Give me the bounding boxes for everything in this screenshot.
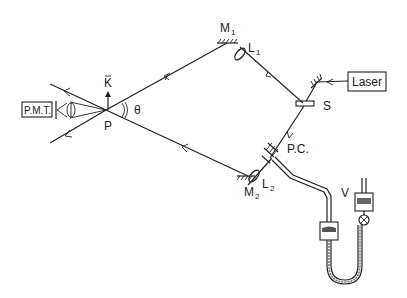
v-label: V <box>341 186 349 200</box>
outgoing-beam-upper <box>50 84 106 110</box>
laser-label: Laser <box>352 75 382 89</box>
p-label: P <box>104 119 112 133</box>
l2-subscript: 2 <box>270 184 275 193</box>
pmt-label: P.M.T. <box>24 105 51 116</box>
wave-vector-k: K <box>104 76 112 110</box>
k-label: K <box>104 76 112 90</box>
l2-label: L <box>262 177 269 191</box>
laser: Laser <box>348 72 386 91</box>
pockels-cell-pc: P.C. <box>262 142 309 163</box>
m1-subscript: 1 <box>231 28 236 37</box>
optical-setup-diagram: Laser S M 1 L 1 <box>0 0 407 298</box>
m2-subscript: 2 <box>255 192 260 201</box>
l1-subscript: 1 <box>256 48 261 57</box>
s-label: S <box>323 99 331 113</box>
m2-label: M <box>244 185 254 199</box>
theta-label: θ <box>134 103 141 117</box>
beam-m2-to-p <box>106 110 248 176</box>
l1-label: L <box>248 41 255 55</box>
steering-mirror <box>311 74 322 88</box>
gas-tubing <box>272 157 331 222</box>
arrow-icon <box>287 131 293 138</box>
pc-label: P.C. <box>287 142 309 156</box>
outgoing-beam-lower <box>50 110 106 143</box>
beam-s-to-m1 <box>240 47 303 103</box>
valve-v: V <box>341 178 373 225</box>
angle-theta: θ <box>122 102 141 118</box>
laser-beam <box>316 81 348 82</box>
m1-label: M <box>220 21 230 35</box>
lens-l1: L 1 <box>233 41 261 62</box>
reservoir <box>320 222 338 240</box>
mirror-m1: M 1 <box>217 21 238 43</box>
